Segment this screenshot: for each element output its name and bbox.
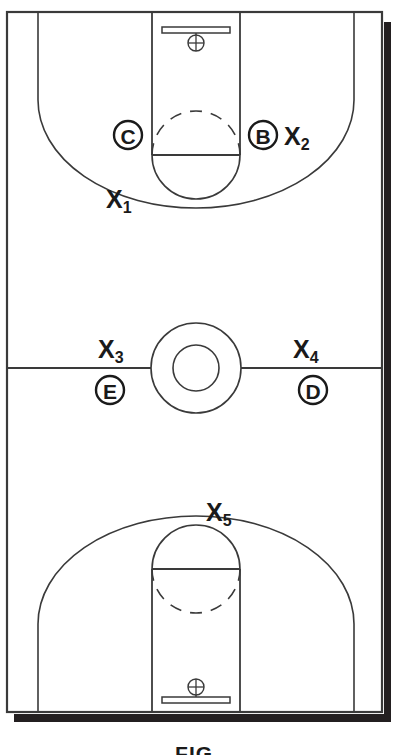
top-backboard: [162, 27, 230, 33]
position-label-x1-base: X: [106, 185, 123, 213]
bottom-backboard: [162, 697, 230, 703]
position-label-x5-sub: 5: [223, 512, 232, 529]
player-marker-d-letter: D: [305, 380, 320, 403]
position-label-x2-sub: 2: [301, 136, 310, 153]
position-label-x4-sub: 4: [310, 349, 319, 366]
player-marker-e-letter: E: [103, 380, 117, 403]
right-edge-shadow: [384, 22, 391, 722]
center-circle-inner: [173, 345, 219, 391]
position-label-x5-base: X: [206, 498, 223, 526]
position-label-x4-base: X: [293, 335, 310, 363]
player-marker-c[interactable]: C: [114, 121, 142, 149]
court-diagram-svg: C B E D X1: [0, 0, 395, 755]
position-label-x1-sub: 1: [123, 199, 132, 216]
position-label-x3-base: X: [98, 335, 115, 363]
player-marker-b-letter: B: [255, 125, 270, 148]
position-label-x3-sub: 3: [115, 349, 124, 366]
figure-caption: FIG.: [0, 742, 395, 755]
player-marker-e[interactable]: E: [96, 376, 124, 404]
position-label-x2-base: X: [284, 122, 301, 150]
basketball-court-figure: C B E D X1: [0, 0, 395, 755]
player-marker-d[interactable]: D: [299, 376, 327, 404]
player-marker-b[interactable]: B: [249, 121, 277, 149]
player-marker-c-letter: C: [120, 125, 135, 148]
bottom-edge-shadow: [14, 714, 391, 722]
